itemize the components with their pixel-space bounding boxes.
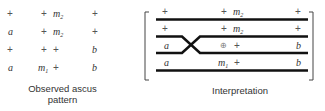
chromatid-3-line	[156, 37, 308, 54]
interp-r1-right: +	[295, 7, 301, 17]
interp-r3-right: b	[296, 41, 301, 51]
interp-r3-left: a	[164, 41, 169, 51]
interp-r4-mid-a: m1	[218, 58, 228, 68]
interpretation-caption: Interpretation	[190, 85, 290, 96]
left-bracket	[145, 12, 149, 80]
interp-r4-mid-b: +	[234, 58, 240, 68]
interp-r2-left: +	[162, 24, 168, 34]
chromatid-2-line	[156, 37, 308, 54]
interp-r4-right: b	[296, 58, 301, 68]
interp-r3-mid-b: +	[234, 41, 240, 51]
interp-r2-mid-b: m2	[233, 24, 243, 34]
interp-r3-circled-plus: ⊕	[220, 41, 227, 51]
interp-r4-left: a	[164, 58, 169, 68]
interp-r1-mid-a: +	[221, 7, 227, 17]
right-bracket	[309, 12, 313, 80]
interp-r2-right: +	[295, 24, 301, 34]
interp-r2-mid-a: +	[221, 24, 227, 34]
interp-r1-mid-b: m2	[233, 7, 243, 17]
interp-r1-left: +	[162, 7, 168, 17]
